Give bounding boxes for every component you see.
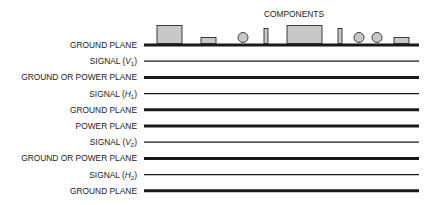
layer-label: GROUND PLANE — [70, 40, 137, 50]
layer-label: POWER PLANE — [76, 121, 138, 131]
layer-label: SIGNAL (H1) — [89, 89, 137, 100]
components-title: COMPONENTS — [264, 9, 324, 19]
layer-row: GROUND OR POWER PLANE — [21, 72, 419, 82]
layer-row: GROUND PLANE — [70, 105, 419, 115]
pcb-stackup-diagram: COMPONENTS GROUND PLANESIGNAL (V1)GROUND… — [0, 0, 432, 205]
layer-label: SIGNAL (H2) — [89, 170, 137, 181]
component-circle — [354, 33, 364, 43]
layer-row: GROUND OR POWER PLANE — [21, 153, 419, 163]
component-circle — [372, 33, 382, 43]
component-small-rect — [201, 38, 216, 44]
layer-label: SIGNAL (V1) — [90, 56, 137, 67]
component-large-rect — [157, 26, 182, 44]
layer-row: SIGNAL (H1) — [89, 89, 419, 100]
component-circle — [238, 33, 248, 43]
component-large-rect — [287, 26, 322, 44]
layer-row: SIGNAL (H2) — [89, 170, 419, 181]
layers-group: GROUND PLANESIGNAL (V1)GROUND OR POWER P… — [21, 40, 419, 196]
components-group — [157, 26, 409, 44]
layer-label: GROUND OR POWER PLANE — [21, 72, 137, 82]
component-thin-rect — [338, 29, 342, 44]
layer-label: GROUND OR POWER PLANE — [21, 153, 137, 163]
layer-row: POWER PLANE — [76, 121, 419, 131]
layer-label: GROUND PLANE — [70, 105, 137, 115]
layer-row: SIGNAL (V1) — [90, 56, 419, 67]
layer-row: GROUND PLANE — [70, 186, 419, 196]
component-small-rect — [394, 38, 409, 44]
component-thin-rect — [264, 29, 268, 44]
layer-label: GROUND PLANE — [70, 186, 137, 196]
layer-row: SIGNAL (V2) — [90, 137, 419, 148]
layer-label: SIGNAL (V2) — [90, 137, 137, 148]
